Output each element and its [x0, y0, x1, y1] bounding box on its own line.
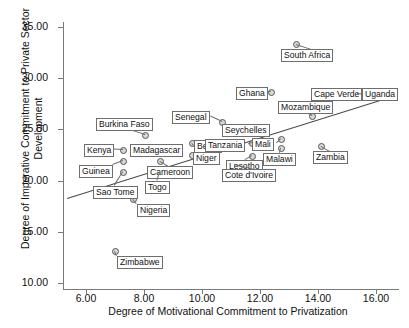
y-tick-label: 25.00: [8, 122, 48, 134]
point-label: Kenya: [84, 144, 114, 157]
y-axis-line: [63, 22, 64, 289]
x-axis-title: Degree of Motivational Commitment to Pri…: [63, 305, 393, 317]
y-tick-label: 15.00: [8, 225, 48, 237]
data-point: [268, 89, 275, 96]
y-tick-mark: [58, 129, 63, 130]
point-label: Burkina Faso: [96, 118, 153, 131]
x-tick-label: 16.00: [353, 292, 399, 304]
x-tick-label: 12.00: [237, 292, 283, 304]
x-axis-line: [63, 289, 399, 290]
point-label: Nigeria: [137, 204, 170, 217]
point-label: Cape Verde: [311, 88, 362, 101]
point-label: Mozambique: [278, 101, 333, 114]
point-label: South Africa: [281, 49, 333, 62]
label-leader-line: [113, 149, 123, 150]
point-label: Cote d'Ivoire: [222, 169, 276, 182]
point-label: Seychelles: [222, 124, 270, 137]
y-tick-label: 30.00: [8, 71, 48, 83]
point-label: Tanzania: [205, 139, 245, 152]
y-tick-label: 10.00: [8, 276, 48, 288]
y-tick-mark: [58, 283, 63, 284]
y-tick-mark: [58, 232, 63, 233]
x-tick-label: 14.00: [295, 292, 341, 304]
y-tick-label: 20.00: [8, 174, 48, 186]
point-label: Uganda: [362, 88, 398, 101]
scatter-plot: Degree of Imperative Commitment to Priva…: [0, 0, 409, 328]
point-label: Togo: [145, 181, 170, 194]
point-label: Cameroon: [147, 166, 193, 179]
point-label: Senegal: [172, 111, 210, 124]
y-tick-label: 35.00: [8, 20, 48, 32]
x-tick-label: 8.00: [121, 292, 167, 304]
y-tick-mark: [58, 27, 63, 28]
y-tick-mark: [58, 78, 63, 79]
point-label: Sao Tome: [93, 186, 138, 199]
point-label: Niger: [193, 152, 220, 165]
point-label: Zimbabwe: [117, 256, 163, 269]
point-label: Guinea: [79, 165, 113, 178]
x-tick-label: 6.00: [63, 292, 109, 304]
point-label: Madagascar: [130, 144, 183, 157]
label-leader-line: [114, 171, 123, 186]
point-label: Mali: [252, 138, 274, 151]
x-tick-label: 10.00: [179, 292, 225, 304]
point-label: Ghana: [236, 87, 268, 100]
y-tick-mark: [58, 181, 63, 182]
point-label: Malawi: [263, 153, 296, 166]
point-label: Zambia: [313, 151, 348, 164]
